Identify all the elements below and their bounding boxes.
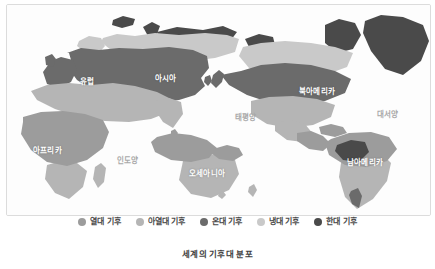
figure-caption: 세계의 기후대 분포 xyxy=(0,247,435,259)
legend-item-temperate[interactable]: 온대 기후 xyxy=(200,218,242,226)
legend-swatch-temperate-icon xyxy=(200,218,208,226)
world-climate-map-svg xyxy=(7,5,430,215)
legend-label-polar: 한대 기후 xyxy=(326,218,356,226)
legend-item-subtropical[interactable]: 아열대 기후 xyxy=(136,218,185,226)
legend-label-subarctic: 냉대 기후 xyxy=(269,218,299,226)
legend-swatch-subtropical-icon xyxy=(136,218,144,226)
legend-item-polar[interactable]: 한대 기후 xyxy=(314,218,356,226)
legend-item-tropical[interactable]: 열대 기후 xyxy=(78,218,120,226)
world-map-panel[interactable]: 유럽 아시아 아프리카 오세아니아 북아메리카 남아메리카 인도양 태평양 대서… xyxy=(6,4,431,216)
legend-label-tropical: 열대 기후 xyxy=(90,218,120,226)
legend-label-temperate: 온대 기후 xyxy=(212,218,242,226)
climate-map-figure: 유럽 아시아 아프리카 오세아니아 북아메리카 남아메리카 인도양 태평양 대서… xyxy=(0,0,435,269)
legend-swatch-polar-icon xyxy=(314,218,322,226)
climate-legend: 열대 기후 아열대 기후 온대 기후 냉대 기후 한대 기후 xyxy=(0,218,435,226)
legend-item-subarctic[interactable]: 냉대 기후 xyxy=(257,218,299,226)
legend-swatch-subarctic-icon xyxy=(257,218,265,226)
legend-swatch-tropical-icon xyxy=(78,218,86,226)
legend-label-subtropical: 아열대 기후 xyxy=(148,218,185,226)
